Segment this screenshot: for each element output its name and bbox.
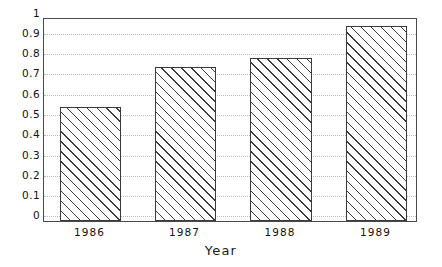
y-tick-label: 0 xyxy=(4,210,40,220)
y-tick-label: 0.7 xyxy=(4,68,40,78)
y-tick-label: 0.9 xyxy=(4,28,40,38)
y-tick-label: 0.1 xyxy=(4,190,40,200)
y-tick-label: 1 xyxy=(4,8,40,18)
x-tick-label-1988: 1988 xyxy=(249,226,311,238)
y-axis-tick-labels: 1 0.9 0.8 0.7 0.6 0.5 0.4 0.3 0.2 0.1 0 xyxy=(0,0,40,267)
y-tick-label: 0.4 xyxy=(4,129,40,139)
x-tick-label-1986: 1986 xyxy=(59,226,120,238)
bar-1986 xyxy=(60,107,121,221)
x-axis-title: Year xyxy=(0,243,442,258)
bar-chart: 1 0.9 0.8 0.7 0.6 0.5 0.4 0.3 0.2 0.1 0 … xyxy=(0,0,442,267)
bar-1988 xyxy=(250,58,312,221)
bar-1989 xyxy=(346,26,407,221)
y-tick-label: 0.3 xyxy=(4,150,40,160)
y-tick-label: 0.6 xyxy=(4,89,40,99)
x-tick-label-1987: 1987 xyxy=(154,226,215,238)
x-tick-label-1989: 1989 xyxy=(345,226,406,238)
y-tick-label: 0.5 xyxy=(4,109,40,119)
bar-1987 xyxy=(155,67,216,221)
y-tick-label: 0.8 xyxy=(4,48,40,58)
y-tick-label: 0.2 xyxy=(4,170,40,180)
plot-area xyxy=(43,18,417,222)
